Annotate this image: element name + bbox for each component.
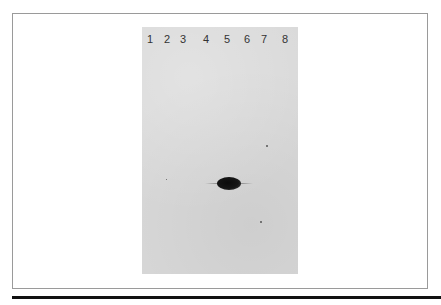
lane-label-4: 4 xyxy=(203,32,209,46)
lane-label-2: 2 xyxy=(164,32,170,46)
gel-image xyxy=(142,27,298,274)
lane-label-8: 8 xyxy=(282,32,288,46)
lane-label-5: 5 xyxy=(224,32,230,46)
gel-speck xyxy=(166,179,167,180)
gel-speck xyxy=(260,221,262,223)
lane-label-6: 6 xyxy=(244,32,250,46)
gel-speck xyxy=(266,145,268,147)
lane-label-1: 1 xyxy=(147,32,153,46)
lane-label-7: 7 xyxy=(261,32,267,46)
lane-labels: 1 2 3 4 5 6 7 8 xyxy=(142,32,298,46)
caption-text xyxy=(60,300,441,305)
lane-label-3: 3 xyxy=(180,32,186,46)
protein-band-lane-5 xyxy=(217,177,241,190)
caption-rule xyxy=(12,296,441,299)
